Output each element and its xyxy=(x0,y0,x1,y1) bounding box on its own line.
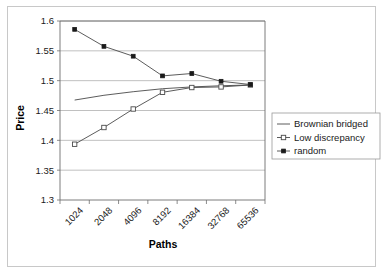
data-point-marker xyxy=(73,27,77,31)
y-tick-label: 1.3 xyxy=(41,194,54,205)
legend-marker xyxy=(282,149,286,153)
data-point-marker xyxy=(102,44,106,48)
x-axis-tick-labels: 1024204840968192163843276865536 xyxy=(62,205,260,231)
data-point-marker xyxy=(219,79,223,83)
data-point-marker xyxy=(190,72,194,76)
data-point-marker xyxy=(102,125,106,129)
y-tick-label: 1.45 xyxy=(36,105,55,116)
y-tick-label: 1.35 xyxy=(36,165,55,176)
data-point-marker xyxy=(72,142,76,146)
x-axis-title: Paths xyxy=(149,238,178,250)
y-tick-label: 1.6 xyxy=(41,15,54,26)
x-tick-label: 1024 xyxy=(62,205,85,228)
y-tick-label: 1.5 xyxy=(41,75,54,86)
data-series-layer xyxy=(72,27,252,146)
y-tick-label: 1.55 xyxy=(36,45,55,56)
data-point-marker xyxy=(219,85,223,89)
chart-legend: Brownian bridgedLow discrepancyrandom xyxy=(272,113,380,159)
gridlines xyxy=(57,21,265,200)
x-tick-label: 8192 xyxy=(150,205,173,228)
y-tick-label: 1.4 xyxy=(41,135,54,146)
x-tick-label: 2048 xyxy=(92,205,115,228)
y-axis-tick-labels: 1.31.351.41.451.51.551.6 xyxy=(36,15,55,205)
legend-item-label: Low discrepancy xyxy=(294,132,365,143)
legend-item-label: random xyxy=(294,145,326,156)
x-tick-label: 32768 xyxy=(205,205,231,231)
x-tick-label: 65536 xyxy=(234,205,260,231)
data-point-marker xyxy=(190,85,194,89)
data-point-marker xyxy=(248,83,252,87)
legend-item-label: Brownian bridged xyxy=(294,118,368,129)
x-tick-label: 4096 xyxy=(121,205,144,228)
legend-marker xyxy=(281,135,285,139)
data-point-marker xyxy=(131,107,135,111)
data-point-marker xyxy=(160,90,164,94)
data-point-marker xyxy=(131,54,135,58)
line-chart: 1.31.351.41.451.51.551.6 102420484096819… xyxy=(0,0,383,274)
x-tick-label: 16384 xyxy=(176,205,202,231)
chart-figure: 1.31.351.41.451.51.551.6 102420484096819… xyxy=(0,0,383,274)
data-point-marker xyxy=(161,74,165,78)
x-axis-tick-marks xyxy=(60,200,265,204)
y-axis-title: Price xyxy=(14,105,26,131)
